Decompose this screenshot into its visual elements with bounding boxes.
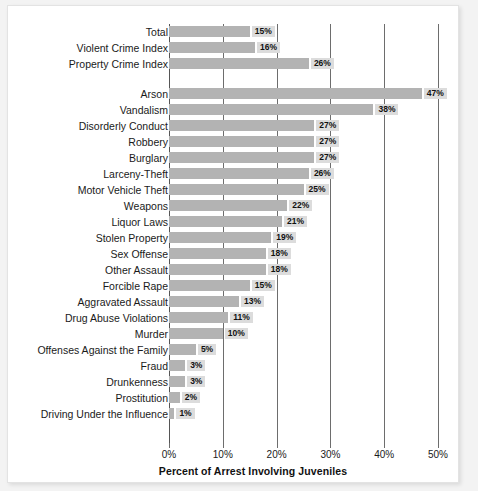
category-label: Aggravated Assault — [0, 294, 168, 310]
bar[interactable] — [169, 376, 185, 387]
bar-value-label: 27% — [316, 152, 339, 163]
bar-row[interactable]: Drunkenness3% — [8, 374, 460, 390]
bar-row[interactable]: Arson47% — [8, 86, 460, 102]
bar-row[interactable]: Liquor Laws21% — [8, 214, 460, 230]
bar-value-label: 27% — [316, 136, 339, 147]
category-label: Drug Abuse Violations — [0, 310, 168, 326]
category-label: Sex Offense — [0, 246, 168, 262]
bar-value-label: 21% — [284, 216, 307, 227]
bar-row[interactable]: Other Assault18% — [8, 262, 460, 278]
tick-50% — [438, 443, 439, 448]
tick-label-10%: 10% — [203, 449, 243, 460]
tick-40% — [384, 443, 385, 448]
bar[interactable] — [169, 42, 255, 53]
tick-label-40%: 40% — [364, 449, 404, 460]
category-label: Robbery — [0, 134, 168, 150]
bar-value-label: 16% — [257, 42, 280, 53]
bar-value-label: 13% — [241, 296, 264, 307]
bar[interactable] — [169, 408, 174, 419]
category-label: Total — [0, 24, 168, 40]
bar[interactable] — [169, 280, 250, 291]
category-label: Arson — [0, 86, 168, 102]
bar-row[interactable]: Property Crime Index26% — [8, 56, 460, 72]
bar[interactable] — [169, 136, 314, 147]
category-label: Fraud — [0, 358, 168, 374]
bar[interactable] — [169, 168, 309, 179]
bar[interactable] — [169, 312, 228, 323]
bar[interactable] — [169, 152, 314, 163]
bar-row[interactable]: Robbery27% — [8, 134, 460, 150]
bar-row[interactable]: Vandalism38% — [8, 102, 460, 118]
bar-value-label: 26% — [311, 58, 334, 69]
category-label: Offenses Against the Family — [0, 342, 168, 358]
bar-value-label: 10% — [225, 328, 248, 339]
category-label: Forcible Rape — [0, 278, 168, 294]
bar-row[interactable]: Disorderly Conduct27% — [8, 118, 460, 134]
bar-row[interactable]: Aggravated Assault13% — [8, 294, 460, 310]
tick-0% — [169, 443, 170, 448]
category-label: Vandalism — [0, 102, 168, 118]
x-axis-title-text: Percent of Arrest Involving Juveniles — [159, 465, 347, 477]
bar[interactable] — [169, 392, 180, 403]
bar-value-label: 11% — [230, 312, 253, 323]
bar[interactable] — [169, 184, 304, 195]
bar-row[interactable]: Drug Abuse Violations11% — [8, 310, 460, 326]
category-label: Murder — [0, 326, 168, 342]
bar[interactable] — [169, 88, 422, 99]
bar-row[interactable]: Sex Offense18% — [8, 246, 460, 262]
bar[interactable] — [169, 200, 287, 211]
bar-row[interactable]: Prostitution2% — [8, 390, 460, 406]
bar[interactable] — [169, 232, 271, 243]
bar-row[interactable]: Larceny-Theft26% — [8, 166, 460, 182]
bar-row[interactable]: Total15% — [8, 24, 460, 40]
bar-value-label: 25% — [306, 184, 329, 195]
category-label: Stolen Property — [0, 230, 168, 246]
bar[interactable] — [169, 120, 314, 131]
tick-label-30%: 30% — [310, 449, 350, 460]
x-axis-title: Percent of Arrest Involving Juveniles — [8, 465, 460, 477]
category-label: Burglary — [0, 150, 168, 166]
bar[interactable] — [169, 248, 266, 259]
bar-row[interactable]: Burglary27% — [8, 150, 460, 166]
category-label: Driving Under the Influence — [0, 406, 168, 422]
bar-value-label: 47% — [424, 88, 447, 99]
tick-label-50%: 50% — [418, 449, 458, 460]
bar-row[interactable]: Driving Under the Influence1% — [8, 406, 460, 422]
bar-row[interactable]: Fraud3% — [8, 358, 460, 374]
bar-value-label: 2% — [182, 392, 200, 403]
bar-row[interactable]: Violent Crime Index16% — [8, 40, 460, 56]
horizontal-bar-chart: Total15%Violent Crime Index16%Property C… — [8, 6, 460, 484]
bar-value-label: 19% — [273, 232, 296, 243]
bar-row[interactable]: Motor Vehicle Theft25% — [8, 182, 460, 198]
bar-row[interactable]: Offenses Against the Family5% — [8, 342, 460, 358]
bar[interactable] — [169, 344, 196, 355]
bar-row[interactable]: Weapons22% — [8, 198, 460, 214]
bar[interactable] — [169, 26, 250, 37]
tick-label-0%: 0% — [149, 449, 189, 460]
bar-value-label: 26% — [311, 168, 334, 179]
bar[interactable] — [169, 296, 239, 307]
category-label: Larceny-Theft — [0, 166, 168, 182]
bar[interactable] — [169, 264, 266, 275]
category-label: Drunkenness — [0, 374, 168, 390]
bar[interactable] — [169, 328, 223, 339]
category-label: Weapons — [0, 198, 168, 214]
bar-value-label: 18% — [268, 248, 291, 259]
bar-row[interactable]: Forcible Rape15% — [8, 278, 460, 294]
category-label: Violent Crime Index — [0, 40, 168, 56]
tick-30% — [330, 443, 331, 448]
bar-value-label: 1% — [176, 408, 194, 419]
bar[interactable] — [169, 104, 373, 115]
bar[interactable] — [169, 360, 185, 371]
tick-20% — [277, 443, 278, 448]
bar[interactable] — [169, 58, 309, 69]
category-label: Disorderly Conduct — [0, 118, 168, 134]
tick-label-20%: 20% — [257, 449, 297, 460]
bar[interactable] — [169, 216, 282, 227]
bar-value-label: 3% — [187, 376, 205, 387]
bar-rows: Total15%Violent Crime Index16%Property C… — [8, 24, 460, 422]
category-label: Motor Vehicle Theft — [0, 182, 168, 198]
bar-row[interactable]: Murder10% — [8, 326, 460, 342]
category-label: Liquor Laws — [0, 214, 168, 230]
bar-row[interactable]: Stolen Property19% — [8, 230, 460, 246]
